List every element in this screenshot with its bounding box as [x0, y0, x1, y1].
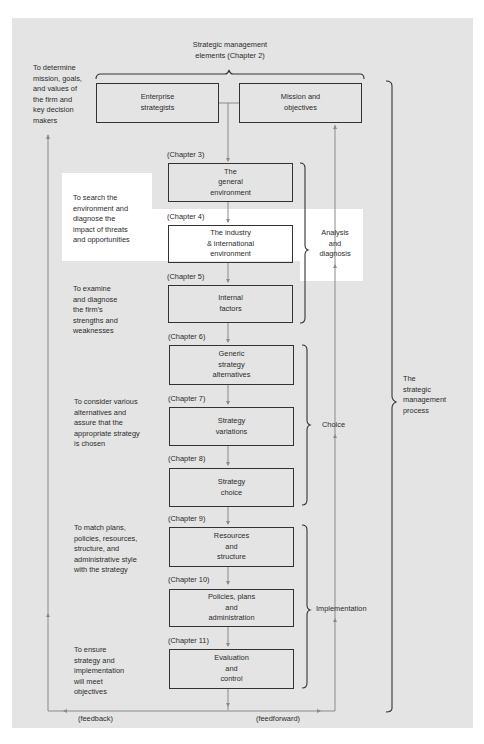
box-general-environment: The general environment — [168, 163, 293, 202]
feedforward-label: (feedforward) — [256, 714, 300, 725]
chapter-7-label: (Chapter 7) — [168, 394, 205, 405]
box-internal-factors: Internal factors — [168, 285, 293, 323]
note-analysis-internal: To examine and diagnose the firm's stren… — [73, 284, 153, 337]
chapter-6-label: (Chapter 6) — [168, 332, 205, 343]
chapter-8-label: (Chapter 8) — [168, 454, 205, 465]
box-resources-structure: Resources and structure — [169, 527, 294, 567]
box-mission-objectives: Mission and objectives — [239, 83, 362, 123]
box-generic-strategy: Generic strategy alternatives — [169, 345, 294, 385]
note-implementation-ensure: To ensure strategy and implementation wi… — [74, 645, 154, 698]
chapter-5-label: (Chapter 5) — [167, 272, 204, 283]
note-elements: To determine mission, goals, and values … — [33, 63, 93, 127]
chapter-9-label: (Chapter 9) — [168, 514, 205, 525]
box-industry-international: The industry & international environment — [168, 225, 293, 263]
note-analysis-environment: To search the environment and diagnose t… — [73, 193, 153, 246]
phase-implementation: Implementation — [316, 604, 367, 615]
box-policies-plans: Policies, plans and administration — [169, 589, 294, 627]
phase-analysis-diagnosis: Analysis and diagnosis — [305, 228, 365, 260]
box-evaluation-control: Evaluation and control — [169, 649, 294, 689]
note-choice: To consider various alternatives and ass… — [74, 397, 164, 450]
header-title: Strategic management elements (Chapter 2… — [170, 40, 290, 61]
box-strategy-variations: Strategy variations — [169, 407, 294, 446]
box-strategy-choice: Strategy choice — [169, 468, 294, 507]
note-implementation-match: To match plans, policies, resources, str… — [74, 523, 164, 576]
chapter-4-label: (Chapter 4) — [167, 212, 204, 223]
chapter-3-label: (Chapter 3) — [167, 150, 204, 161]
chapter-10-label: (Chapter 10) — [168, 575, 210, 586]
box-enterprise-strategists: Enterprise strategists — [96, 83, 219, 123]
chapter-11-label: (Chapter 11) — [168, 636, 209, 647]
feedback-label: (feedback) — [78, 714, 113, 725]
phase-choice: Choice — [322, 420, 345, 431]
strategic-management-process-label: The strategic management process — [403, 374, 463, 416]
